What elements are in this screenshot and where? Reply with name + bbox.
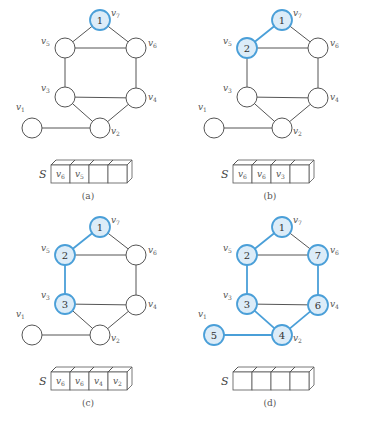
vertex-label: v4: [330, 92, 339, 103]
vertex-v4: v4: [308, 88, 339, 108]
vertex-v4: v4: [126, 295, 157, 315]
vertex-label: v6: [330, 245, 339, 256]
vertex-v6: 7v6: [308, 245, 339, 265]
stack-label: S: [39, 375, 47, 388]
stack-cell: [89, 165, 108, 183]
vertex-label: v7: [293, 215, 302, 226]
edge-v7-v6: [290, 26, 310, 42]
vertex-v7: 1v7: [272, 215, 302, 237]
edge-v4-v2: [108, 104, 129, 121]
visit-order: 6: [315, 300, 321, 311]
edge-v7-v6: [108, 233, 128, 249]
edge-v7-v6: [290, 233, 310, 249]
vertex-v1: v1: [16, 309, 42, 345]
visit-order: 1: [279, 15, 285, 26]
vertex-v2: v2: [272, 118, 302, 138]
vertex-v6: v6: [308, 38, 339, 58]
stack-S: Sv6v6v3: [221, 160, 314, 183]
vertex-v3: 3v3: [223, 290, 257, 314]
vertex-v1: v1: [16, 102, 42, 138]
panel-caption: (c): [82, 398, 94, 408]
stack-S: Sv6v5: [39, 160, 132, 183]
vertex-label: v5: [223, 243, 232, 254]
edge-v7-v5: [73, 233, 92, 249]
vertex-label: v2: [111, 333, 120, 344]
vertex-label: v3: [41, 290, 50, 301]
vertex-v2: 4v2: [272, 325, 302, 345]
panel-d: 5v14v23v36v42v57v61v7S(d): [198, 215, 339, 408]
vertex-v3: 3v3: [41, 290, 75, 314]
visit-order: 1: [97, 15, 103, 26]
visit-order: 5: [211, 330, 217, 341]
vertex-label: v1: [198, 102, 207, 113]
vertex-label: v6: [148, 38, 157, 49]
visit-order: 3: [62, 299, 68, 310]
vertex-v2: v2: [90, 325, 120, 345]
visit-order: 1: [279, 222, 285, 233]
vertex-label: v2: [293, 126, 302, 137]
visit-order: 1: [97, 222, 103, 233]
vertex-label: v2: [111, 126, 120, 137]
vertex-label: v6: [148, 245, 157, 256]
vertex-v7: 1v7: [90, 8, 120, 30]
stack-label: S: [39, 168, 47, 181]
visit-order: 2: [244, 43, 250, 54]
vertex-v5: 2v5: [223, 36, 257, 58]
stack-label: S: [221, 168, 229, 181]
vertex-v3: v3: [41, 83, 75, 107]
vertex-label: v4: [148, 92, 157, 103]
edge-v3-v4: [257, 304, 308, 305]
stack-cell: [290, 165, 309, 183]
vertex-label: v2: [293, 333, 302, 344]
edge-v7-v6: [108, 26, 128, 42]
stack-cell: [252, 372, 271, 390]
edge-v7-v5: [255, 26, 274, 42]
vertex-label: v4: [148, 299, 157, 310]
edge-v4-v2: [290, 104, 311, 121]
stack-S: S: [221, 367, 314, 390]
edge-v3-v4: [75, 97, 126, 98]
vertex-label: v7: [111, 215, 120, 226]
vertex-v5: v5: [41, 36, 75, 58]
stack-cell: [290, 372, 309, 390]
vertex-label: v3: [223, 290, 232, 301]
vertex-v1: 5v1: [198, 309, 224, 345]
vertex-v4: v4: [126, 88, 157, 108]
edge-v3-v2: [254, 104, 274, 122]
visit-order: 7: [315, 250, 321, 261]
stack-S: Sv6v6v4v2: [39, 367, 132, 390]
stack-cell: [108, 165, 127, 183]
edge-v3-v2: [254, 311, 274, 329]
vertex-label: v5: [223, 36, 232, 47]
visit-order: 4: [279, 330, 285, 341]
edge-v7-v5: [255, 233, 274, 249]
visit-order: 3: [244, 299, 250, 310]
visit-order: 2: [244, 250, 250, 261]
vertex-v3: v3: [223, 83, 257, 107]
panel-caption: (d): [264, 398, 277, 408]
vertex-v4: 6v4: [308, 295, 339, 315]
edge-v4-v2: [290, 311, 311, 328]
vertex-v1: v1: [198, 102, 224, 138]
vertex-label: v7: [293, 8, 302, 19]
edge-v3-v4: [75, 304, 126, 305]
stack-cell: [233, 372, 252, 390]
panel-b: v1v2v3v42v5v61v7Sv6v6v3(b): [198, 8, 339, 201]
edge-v3-v2: [72, 104, 92, 122]
edge-v3-v2: [72, 311, 92, 329]
vertex-v5: 2v5: [41, 243, 75, 265]
edge-v7-v5: [73, 26, 92, 42]
vertex-v7: 1v7: [272, 8, 302, 30]
vertex-label: v1: [16, 102, 25, 113]
vertex-label: v4: [330, 299, 339, 310]
vertex-v6: v6: [126, 38, 157, 58]
vertex-label: v5: [41, 36, 50, 47]
vertex-label: v5: [41, 243, 50, 254]
dfs-figure: v1v2v3v4v5v61v7Sv6v5(a)v1v2v3v42v5v61v7S…: [0, 0, 365, 425]
visit-order: 2: [62, 250, 68, 261]
vertex-v2: v2: [90, 118, 120, 138]
stack-cell: [271, 372, 290, 390]
vertex-v5: 2v5: [223, 243, 257, 265]
vertex-label: v6: [330, 38, 339, 49]
vertex-v6: v6: [126, 245, 157, 265]
